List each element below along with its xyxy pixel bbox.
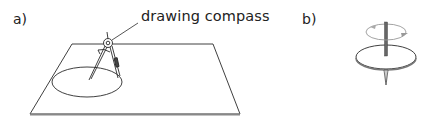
spindle <box>385 22 388 56</box>
paper-sheet <box>30 44 240 115</box>
diagram-canvas <box>0 0 437 126</box>
rotation-arrowhead-icon <box>401 33 408 37</box>
callout-leader-line <box>112 23 138 40</box>
spinning-top-icon <box>356 22 416 85</box>
